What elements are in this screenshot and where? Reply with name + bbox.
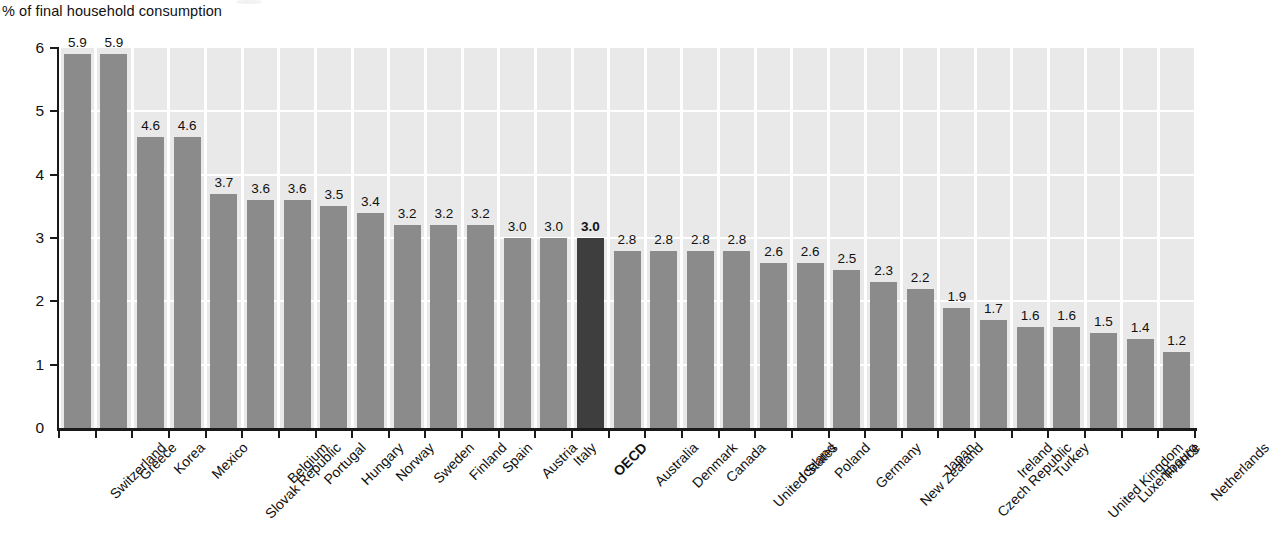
bar (614, 251, 641, 428)
x-axis-category-label: OECD (611, 440, 650, 479)
bar (247, 200, 274, 428)
bar (174, 137, 201, 428)
y-axis-tick (50, 364, 58, 366)
y-axis-tick (50, 110, 58, 112)
y-axis-tick-label: 3 (14, 230, 44, 246)
x-axis-tick (1157, 431, 1159, 438)
gridline-vertical (497, 48, 500, 428)
bar (210, 194, 237, 428)
gridline-vertical (1120, 48, 1123, 428)
x-axis-tick (241, 431, 243, 438)
y-axis-tick-label: 6 (14, 40, 44, 56)
x-axis-tick (534, 431, 536, 438)
gridline-vertical (204, 48, 207, 428)
x-axis-tick (95, 431, 97, 438)
gridline-vertical (94, 48, 97, 428)
x-axis-tick (571, 431, 573, 438)
x-axis-tick (937, 431, 939, 438)
bar (504, 238, 531, 428)
gridline-vertical (424, 48, 427, 428)
bar (907, 289, 934, 428)
x-axis-tick (351, 431, 353, 438)
x-axis-tick (1121, 431, 1123, 438)
bar (284, 200, 311, 428)
x-axis-tick (791, 431, 793, 438)
bar-value-label: 1.2 (1155, 334, 1199, 348)
scan-artifact (236, 0, 262, 4)
x-axis-category-label: Iceland (796, 440, 838, 482)
y-axis-tick-label: 0 (14, 420, 44, 436)
bar (137, 137, 164, 428)
x-axis-tick (498, 431, 500, 438)
bar-value-label: 4.6 (165, 119, 209, 133)
x-axis-category-label: Netherlands (1208, 440, 1271, 503)
x-axis-category-label: Poland (832, 440, 873, 481)
gridline-vertical (534, 48, 537, 428)
y-axis-tick-label: 5 (14, 103, 44, 119)
x-axis-tick (974, 431, 976, 438)
bar (357, 213, 384, 428)
gridline-vertical (387, 48, 390, 428)
x-axis-tick (388, 431, 390, 438)
gridline-vertical (167, 48, 170, 428)
x-axis-tick (1011, 431, 1013, 438)
bar (980, 320, 1007, 428)
x-axis-tick (681, 431, 683, 438)
y-axis-tick-label: 1 (14, 357, 44, 373)
x-axis-tick (1194, 431, 1196, 438)
bar (1053, 327, 1080, 428)
gridline-vertical (937, 48, 940, 428)
x-axis-tick (608, 431, 610, 438)
x-axis-tick (278, 431, 280, 438)
gridline-vertical (461, 48, 464, 428)
bar (320, 206, 347, 428)
x-axis-tick (1047, 431, 1049, 438)
bar (1090, 333, 1117, 428)
bar (723, 251, 750, 428)
gridline-vertical (974, 48, 977, 428)
gridline-vertical (59, 48, 61, 428)
x-axis-tick (718, 431, 720, 438)
gridline-vertical (131, 48, 134, 428)
y-axis-tick (50, 237, 58, 239)
y-axis-tick-label: 4 (14, 167, 44, 183)
x-axis-tick (168, 431, 170, 438)
gridline-vertical (571, 48, 574, 428)
x-axis-tick (901, 431, 903, 438)
bar (870, 282, 897, 428)
bar (1163, 352, 1190, 428)
bar (394, 225, 421, 428)
bar (1127, 339, 1154, 428)
gridline-vertical (351, 48, 354, 428)
x-axis-category-label: Sweden (431, 440, 477, 486)
x-axis-line (57, 428, 1197, 431)
x-axis-tick (205, 431, 207, 438)
bar (64, 54, 91, 428)
gridline-horizontal (59, 110, 1195, 112)
bar (687, 251, 714, 428)
bar (943, 308, 970, 428)
x-axis-tick (131, 431, 133, 438)
bar (577, 238, 604, 428)
x-axis-tick (461, 431, 463, 438)
gridline-vertical (1010, 48, 1013, 428)
y-axis-tick (50, 174, 58, 176)
y-axis-tick (50, 300, 58, 302)
x-axis-tick (754, 431, 756, 438)
x-axis-category-label: Germany (873, 440, 924, 491)
gridline-vertical (864, 48, 867, 428)
bar (650, 251, 677, 428)
bar (430, 225, 457, 428)
bar (540, 238, 567, 428)
x-axis-tick (58, 431, 60, 438)
x-axis-tick (828, 431, 830, 438)
gridline-vertical (900, 48, 903, 428)
bar (833, 270, 860, 428)
bar (760, 263, 787, 428)
bar (1017, 327, 1044, 428)
x-axis-category-label: Korea (171, 440, 207, 476)
x-axis-tick (644, 431, 646, 438)
bar-value-label: 2.2 (898, 271, 942, 285)
bar (100, 54, 127, 428)
gridline-vertical (1084, 48, 1087, 428)
